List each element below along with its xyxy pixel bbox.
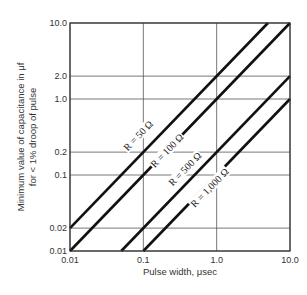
svg-text:R = 100 Ω: R = 100 Ω xyxy=(148,131,185,169)
svg-text:R = 1,000 Ω: R = 1,000 Ω xyxy=(188,166,230,209)
y-tick-label: 1.0 xyxy=(54,94,67,104)
y-axis-label-line2: for < 1% droop of pulse xyxy=(27,88,38,187)
x-tick-label: 1.0 xyxy=(210,255,223,265)
svg-text:R = 500 Ω: R = 500 Ω xyxy=(166,150,203,188)
chart: R = 50 ΩR = 100 ΩR = 500 ΩR = 1,000 Ω 0.… xyxy=(0,0,307,295)
y-tick-label: 0.01 xyxy=(49,246,67,256)
y-tick-label: 10.0 xyxy=(49,18,67,28)
series-label: R = 1,000 Ω xyxy=(188,165,232,210)
x-tick-label: 0.1 xyxy=(137,255,150,265)
series-line xyxy=(121,76,290,251)
y-tick-label: 2.0 xyxy=(54,71,67,81)
svg-text:R = 50 Ω: R = 50 Ω xyxy=(121,118,155,152)
x-tick-label: 0.01 xyxy=(61,255,79,265)
x-axis-label: Pulse width, μsec xyxy=(143,266,217,277)
y-tick-label: 0.02 xyxy=(49,223,67,233)
y-tick-label: 0.2 xyxy=(54,147,67,157)
series-line xyxy=(70,23,268,228)
x-axis-ticks: 0.010.11.010.0 xyxy=(61,255,299,265)
series-label: R = 50 Ω xyxy=(121,118,156,154)
y-axis-label-line1: Minimum value of capacitance in μf xyxy=(15,62,26,211)
y-tick-label: 0.1 xyxy=(54,170,67,180)
y-axis-ticks: 0.010.020.10.21.02.010.0 xyxy=(49,18,67,256)
x-tick-label: 10.0 xyxy=(281,255,299,265)
series-label: R = 500 Ω xyxy=(166,149,205,188)
series-labels: R = 50 ΩR = 100 ΩR = 500 ΩR = 1,000 Ω xyxy=(121,118,232,211)
